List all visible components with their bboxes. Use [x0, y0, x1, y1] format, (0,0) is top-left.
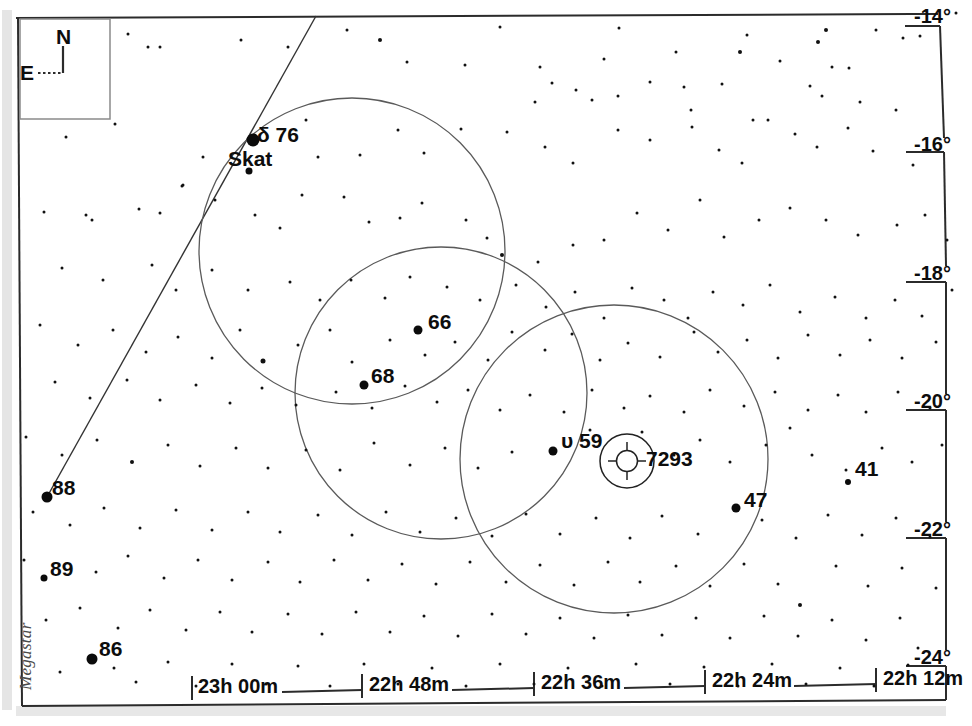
star-dot — [464, 64, 467, 67]
star-dot — [389, 339, 392, 342]
star-dot — [359, 154, 362, 157]
star-dot — [159, 46, 162, 49]
star-dot — [691, 126, 694, 129]
star-dot — [491, 535, 494, 538]
star-dot — [351, 361, 354, 364]
star-dot — [758, 219, 761, 222]
field-circles — [199, 98, 768, 613]
dec-tick-label--14: -14° — [914, 6, 951, 26]
star-dot — [145, 351, 148, 354]
star-dot — [771, 663, 774, 666]
star-chart: N E δ 76 Skat 66 68 υ 59 7293 47 41 88 8… — [0, 0, 972, 726]
star-dot — [693, 331, 696, 334]
star-dot — [305, 119, 308, 122]
star-dot — [59, 671, 62, 674]
star-dot — [159, 212, 162, 215]
star-dot — [902, 37, 905, 40]
star-dot — [687, 317, 690, 320]
star-dot — [717, 351, 720, 354]
star-dot — [912, 164, 915, 167]
star-dot — [559, 617, 562, 620]
star-dot — [831, 619, 834, 622]
star-dot — [875, 29, 878, 32]
star-label-88: 88 — [52, 477, 75, 498]
star-dot — [211, 529, 214, 532]
star-dot — [545, 306, 548, 309]
star-dot — [767, 119, 770, 122]
star-dot — [816, 146, 819, 149]
star-dot — [690, 109, 693, 112]
star-dot — [573, 584, 576, 587]
star-dot — [869, 339, 872, 342]
star-dot — [794, 133, 797, 136]
star-dot — [397, 129, 400, 132]
star-dot — [867, 585, 870, 588]
star-dot — [305, 449, 308, 452]
star-dot — [603, 317, 606, 320]
star-dot — [774, 391, 777, 394]
star-dot — [197, 559, 200, 562]
star-dot — [741, 162, 744, 165]
star-label-delta-76: δ 76 — [257, 124, 299, 145]
star-dot — [61, 267, 64, 270]
star-dot — [421, 202, 424, 205]
star-dot — [151, 264, 154, 267]
star-dot — [695, 617, 698, 620]
star-dot — [697, 533, 700, 536]
star-dot — [873, 685, 876, 688]
star-label-66: 66 — [428, 311, 451, 332]
named-star-dot — [42, 492, 53, 503]
star-dot — [511, 331, 514, 334]
star-dot — [346, 29, 349, 32]
star-dot — [43, 211, 46, 214]
star-dot — [95, 571, 98, 574]
star-dot — [479, 299, 482, 302]
star-dot — [199, 465, 202, 468]
dec-tick-label--16: -16° — [914, 134, 951, 154]
star-dot — [267, 467, 270, 470]
star-dot — [663, 299, 666, 302]
star-dot — [901, 357, 904, 360]
star-dot — [91, 219, 94, 222]
star-dot — [865, 317, 868, 320]
star-dot — [373, 442, 376, 445]
named-stars — [41, 134, 852, 665]
star-dot — [500, 253, 504, 257]
star-dot — [572, 244, 575, 247]
star-dot — [385, 511, 388, 514]
star-dot — [649, 139, 652, 142]
star-dot — [798, 603, 802, 607]
star-dot — [721, 83, 724, 86]
dec-axis — [905, 14, 946, 700]
star-dot — [505, 581, 508, 584]
star-dot — [636, 212, 639, 215]
compass-north-label: N — [56, 26, 71, 47]
star-dot — [629, 537, 632, 540]
star-dot — [709, 585, 712, 588]
star-dot — [247, 289, 250, 292]
star-dot — [389, 631, 392, 634]
star-dot — [807, 334, 810, 337]
named-star-dot — [87, 654, 98, 665]
star-dot — [593, 637, 596, 640]
star-dot — [675, 565, 678, 568]
star-dot — [149, 609, 152, 612]
star-dot — [279, 227, 282, 230]
star-dot — [574, 291, 577, 294]
star-label-68: 68 — [371, 365, 394, 386]
star-dot — [777, 583, 780, 586]
star-dot — [834, 296, 837, 299]
star-dot — [465, 685, 468, 688]
star-dot — [743, 563, 746, 566]
star-dot — [499, 663, 502, 666]
star-dot — [729, 461, 732, 464]
star-dot — [491, 613, 494, 616]
star-dot — [649, 395, 652, 398]
star-dot — [297, 665, 300, 668]
star-dot — [603, 239, 606, 242]
star-dot — [69, 524, 72, 527]
dec-tick-label--20: -20° — [914, 391, 951, 411]
star-dot — [96, 439, 99, 442]
star-dot — [865, 411, 868, 414]
star-dot — [935, 341, 938, 344]
